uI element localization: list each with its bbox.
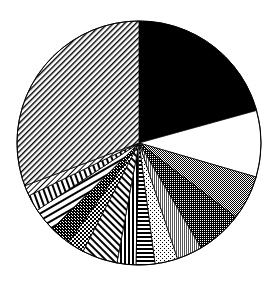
- pie-chart: [0, 0, 277, 288]
